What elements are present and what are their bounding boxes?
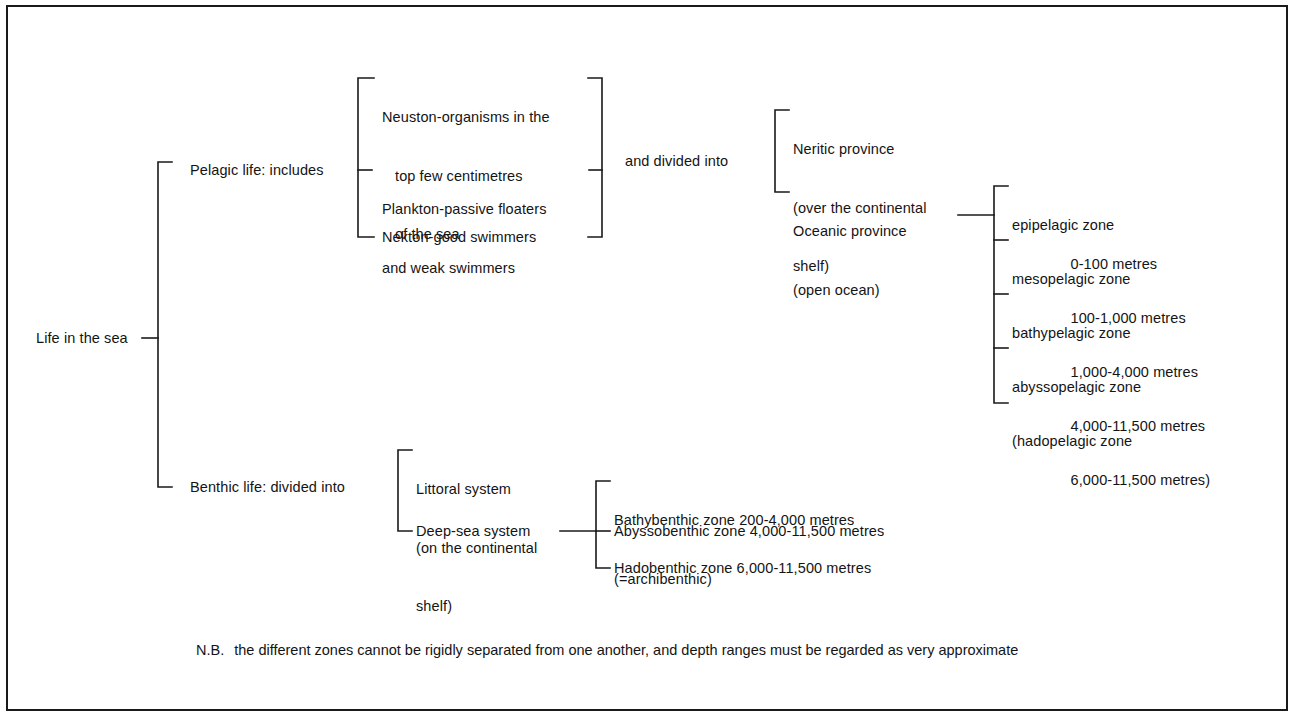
note-text: the different zones cannot be rigidly se… [234,642,1018,658]
branch-label-divided-into: and divided into [625,152,728,172]
pelagic-group-neuston-line1: Neuston-organisms in the [382,108,550,128]
province-oceanic: Oceanic province (open ocean) [793,183,907,339]
note-line: N.B.the different zones cannot be rigidl… [196,642,1018,658]
benthic-system-littoral: Littoral system (on the continental shel… [416,441,537,656]
province-oceanic-line2: (open ocean) [793,281,907,301]
branch-label-pelagic: Pelagic life: includes [190,161,324,181]
pelagic-group-nekton: Nekton-good swimmers [382,228,536,248]
benthic-system-littoral-line3: shelf) [416,597,537,617]
pelagic-zone-hadopelagic: (hadopelagic zone 6,000-11,500 metres) [1012,393,1210,510]
benthic-zone-abyssobenthic: Abyssobenthic zone 4,000-11,500 metres [614,522,884,542]
diagram-canvas: Life in the sea Pelagic life: includes N… [0,0,1299,725]
root-label: Life in the sea [36,329,128,349]
pelagic-group-plankton-line2: and weak swimmers [382,259,547,279]
pelagic-zone-hadopelagic-depth: 6,000-11,500 metres) [1029,471,1211,491]
province-neritic-line1: Neritic province [793,140,927,160]
benthic-zone-hadobenthic: Hadobenthic zone 6,000-11,500 metres [614,559,871,579]
branch-label-benthic: Benthic life: divided into [190,478,345,498]
benthic-zone-bathybenthic: Bathybenthic zone 200-4,000 metres (=arc… [614,472,854,628]
benthic-system-littoral-line1: Littoral system [416,480,537,500]
pelagic-zone-hadopelagic-name: (hadopelagic zone [1012,432,1210,452]
province-oceanic-line1: Oceanic province [793,222,907,242]
benthic-system-deepsea: Deep-sea system [416,522,530,542]
note-prefix: N.B. [196,642,234,658]
pelagic-group-plankton-line1: Plankton-passive floaters [382,200,547,220]
